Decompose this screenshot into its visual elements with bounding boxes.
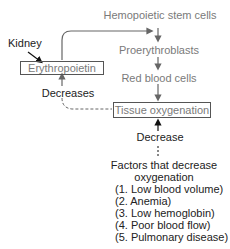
factor-item: (3. Low hemoglobin)	[115, 207, 215, 219]
factors-title-2: oxygenation	[134, 171, 193, 183]
label-kidney: Kidney	[8, 37, 42, 49]
factor-item: (2. Anemia)	[115, 195, 171, 207]
factor-item: (5. Pulmonary disease)	[115, 231, 228, 243]
factor-item: (4. Poor blood flow)	[115, 219, 210, 231]
node-tissue-oxygenation: Tissue oxygenation	[115, 104, 209, 116]
node-red-blood-cells: Red blood cells	[121, 72, 196, 84]
node-stem-cells: Hemopoietic stem cells	[103, 9, 216, 21]
factor-item: (1. Low blood volume)	[115, 183, 223, 195]
label-decreases: Decreases	[42, 87, 95, 99]
factors-title-1: Factors that decrease	[111, 159, 217, 171]
node-proerythroblasts: Proerythroblasts	[119, 44, 199, 56]
label-decrease: Decrease	[136, 131, 183, 143]
node-erythropoietin: Erythropoietin	[28, 62, 96, 74]
